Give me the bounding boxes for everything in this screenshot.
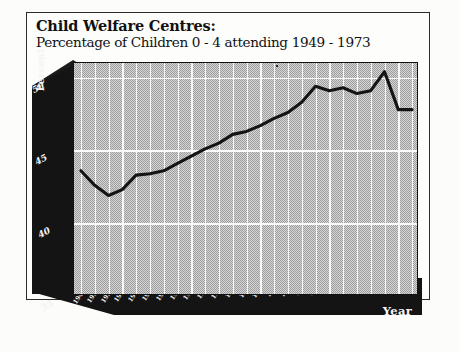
plot-area xyxy=(73,62,418,295)
data-series-line xyxy=(74,63,418,295)
page-title: Child Welfare Centres: xyxy=(36,18,426,33)
title-block: Child Welfare Centres: Percentage of Chi… xyxy=(36,18,426,50)
y-tick-label: 35 xyxy=(39,298,55,313)
page-subtitle: Percentage of Children 0 - 4 attending 1… xyxy=(36,34,426,50)
page-canvas: Child Welfare Centres: Percentage of Chi… xyxy=(0,0,460,352)
chart-3d-body: Percent 50454035 Year 194919501951195219… xyxy=(32,60,422,298)
